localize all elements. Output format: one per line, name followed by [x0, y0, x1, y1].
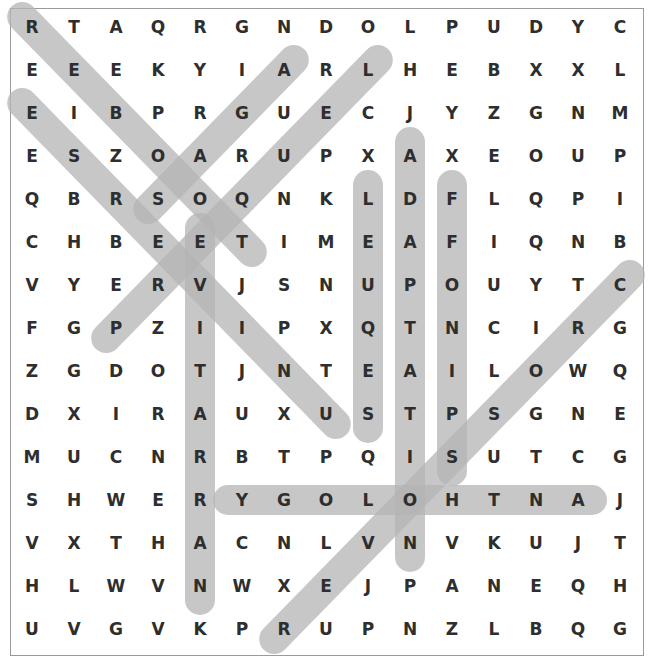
- grid-cell[interactable]: P: [222, 609, 262, 649]
- grid-cell[interactable]: R: [558, 308, 598, 348]
- grid-cell[interactable]: E: [12, 50, 52, 90]
- grid-cell[interactable]: Z: [432, 609, 472, 649]
- grid-cell[interactable]: D: [12, 394, 52, 434]
- grid-cell[interactable]: Y: [558, 7, 598, 47]
- grid-cell[interactable]: E: [600, 394, 640, 434]
- grid-cell[interactable]: A: [432, 566, 472, 606]
- grid-cell[interactable]: L: [474, 609, 514, 649]
- grid-cell[interactable]: N: [558, 394, 598, 434]
- grid-cell[interactable]: T: [222, 222, 262, 262]
- grid-cell[interactable]: M: [600, 93, 640, 133]
- grid-cell[interactable]: I: [96, 394, 136, 434]
- grid-cell[interactable]: N: [432, 308, 472, 348]
- grid-cell[interactable]: I: [390, 437, 430, 477]
- grid-cell[interactable]: U: [558, 136, 598, 176]
- grid-cell[interactable]: N: [390, 523, 430, 563]
- grid-cell[interactable]: S: [348, 394, 388, 434]
- grid-cell[interactable]: L: [474, 351, 514, 391]
- grid-cell[interactable]: F: [432, 179, 472, 219]
- grid-cell[interactable]: P: [138, 93, 178, 133]
- grid-cell[interactable]: O: [138, 136, 178, 176]
- grid-cell[interactable]: X: [264, 566, 304, 606]
- grid-cell[interactable]: C: [96, 437, 136, 477]
- grid-cell[interactable]: N: [180, 566, 220, 606]
- grid-cell[interactable]: P: [558, 179, 598, 219]
- grid-cell[interactable]: U: [474, 265, 514, 305]
- grid-cell[interactable]: Q: [12, 179, 52, 219]
- grid-cell[interactable]: V: [432, 523, 472, 563]
- grid-cell[interactable]: M: [12, 437, 52, 477]
- grid-cell[interactable]: V: [12, 523, 52, 563]
- grid-cell[interactable]: I: [474, 222, 514, 262]
- grid-cell[interactable]: N: [264, 523, 304, 563]
- grid-cell[interactable]: R: [12, 7, 52, 47]
- grid-cell[interactable]: A: [180, 136, 220, 176]
- grid-cell[interactable]: H: [138, 523, 178, 563]
- grid-cell[interactable]: C: [474, 308, 514, 348]
- grid-cell[interactable]: G: [54, 351, 94, 391]
- grid-cell[interactable]: F: [432, 222, 472, 262]
- grid-cell[interactable]: C: [12, 222, 52, 262]
- grid-cell[interactable]: Z: [12, 351, 52, 391]
- grid-cell[interactable]: E: [138, 222, 178, 262]
- grid-cell[interactable]: T: [558, 265, 598, 305]
- grid-cell[interactable]: P: [432, 7, 472, 47]
- grid-cell[interactable]: E: [432, 50, 472, 90]
- grid-cell[interactable]: I: [180, 308, 220, 348]
- grid-cell[interactable]: G: [600, 308, 640, 348]
- grid-cell[interactable]: N: [390, 609, 430, 649]
- grid-cell[interactable]: X: [558, 50, 598, 90]
- grid-cell[interactable]: V: [12, 265, 52, 305]
- grid-cell[interactable]: R: [138, 265, 178, 305]
- grid-cell[interactable]: A: [390, 222, 430, 262]
- grid-cell[interactable]: O: [516, 136, 556, 176]
- grid-cell[interactable]: E: [474, 136, 514, 176]
- grid-cell[interactable]: Q: [600, 351, 640, 391]
- grid-cell[interactable]: O: [348, 7, 388, 47]
- grid-cell[interactable]: J: [222, 351, 262, 391]
- grid-cell[interactable]: G: [264, 480, 304, 520]
- grid-cell[interactable]: O: [306, 480, 346, 520]
- grid-cell[interactable]: J: [348, 566, 388, 606]
- grid-cell[interactable]: H: [390, 50, 430, 90]
- grid-cell[interactable]: B: [222, 437, 262, 477]
- grid-cell[interactable]: R: [180, 480, 220, 520]
- grid-cell[interactable]: S: [138, 179, 178, 219]
- grid-cell[interactable]: Z: [474, 93, 514, 133]
- grid-cell[interactable]: I: [222, 50, 262, 90]
- grid-cell[interactable]: Q: [138, 7, 178, 47]
- grid-cell[interactable]: I: [600, 179, 640, 219]
- grid-cell[interactable]: Y: [54, 265, 94, 305]
- grid-cell[interactable]: C: [600, 7, 640, 47]
- grid-cell[interactable]: R: [138, 394, 178, 434]
- grid-cell[interactable]: S: [12, 480, 52, 520]
- grid-cell[interactable]: P: [390, 265, 430, 305]
- grid-cell[interactable]: U: [306, 609, 346, 649]
- grid-cell[interactable]: T: [264, 437, 304, 477]
- grid-cell[interactable]: V: [138, 566, 178, 606]
- grid-cell[interactable]: N: [516, 480, 556, 520]
- grid-cell[interactable]: I: [516, 308, 556, 348]
- grid-cell[interactable]: U: [12, 609, 52, 649]
- grid-cell[interactable]: D: [516, 7, 556, 47]
- grid-cell[interactable]: J: [390, 93, 430, 133]
- grid-cell[interactable]: Y: [180, 50, 220, 90]
- grid-cell[interactable]: C: [600, 265, 640, 305]
- grid-cell[interactable]: N: [138, 437, 178, 477]
- grid-cell[interactable]: Y: [222, 480, 262, 520]
- grid-cell[interactable]: V: [180, 265, 220, 305]
- grid-cell[interactable]: E: [306, 566, 346, 606]
- grid-cell[interactable]: B: [96, 222, 136, 262]
- grid-cell[interactable]: U: [474, 7, 514, 47]
- grid-cell[interactable]: X: [54, 394, 94, 434]
- grid-cell[interactable]: W: [222, 566, 262, 606]
- grid-cell[interactable]: P: [432, 394, 472, 434]
- grid-cell[interactable]: C: [222, 523, 262, 563]
- grid-cell[interactable]: E: [348, 351, 388, 391]
- grid-cell[interactable]: R: [264, 609, 304, 649]
- grid-cell[interactable]: Q: [558, 566, 598, 606]
- grid-cell[interactable]: I: [432, 351, 472, 391]
- grid-cell[interactable]: G: [516, 93, 556, 133]
- grid-cell[interactable]: L: [54, 566, 94, 606]
- grid-cell[interactable]: P: [600, 136, 640, 176]
